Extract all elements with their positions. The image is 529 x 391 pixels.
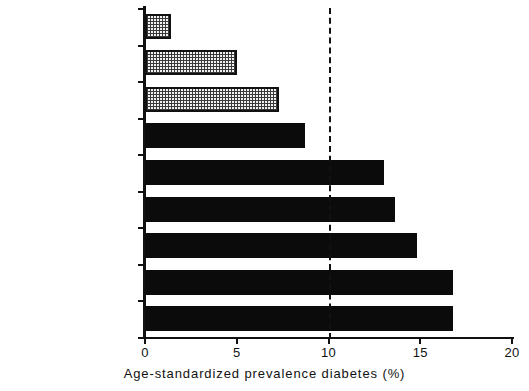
y-axis-tick [138, 300, 145, 302]
y-axis-tick [138, 81, 145, 83]
x-axis-tick-label: 5 [233, 345, 241, 360]
y-axis-tick [138, 154, 145, 156]
y-axis-tick [138, 118, 145, 120]
plot-area [145, 8, 512, 337]
y-axis-tick [138, 264, 145, 266]
x-axis-title: Age-standardized prevalence diabetes (%) [0, 366, 529, 381]
bar [145, 50, 237, 75]
y-axis-tick [138, 191, 145, 193]
bar [145, 160, 384, 185]
x-axis-tick-label: 15 [413, 345, 428, 360]
reference-line-10-percent [329, 8, 331, 339]
bar [145, 87, 279, 112]
x-axis-tick [144, 337, 146, 344]
y-axis-tick [138, 8, 145, 10]
x-axis-tick-label: 20 [504, 345, 519, 360]
x-axis-tick-label: 10 [321, 345, 336, 360]
bar [145, 306, 453, 331]
bar [145, 197, 395, 222]
bar [145, 233, 417, 258]
x-axis-tick-label: 0 [141, 345, 149, 360]
y-axis-tick [138, 45, 145, 47]
bar [145, 14, 171, 39]
y-axis-tick [138, 227, 145, 229]
x-axis-tick [419, 337, 421, 344]
bar [145, 270, 453, 295]
x-axis-tick [511, 337, 513, 344]
diabetes-prevalence-bar-chart: South India (Rural)Tamil Nadu (Urban)Mad… [0, 0, 529, 391]
x-axis-tick [236, 337, 238, 344]
bar [145, 123, 305, 148]
